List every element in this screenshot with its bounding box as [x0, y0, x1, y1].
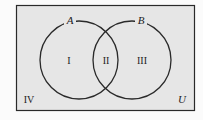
- universe-label: U: [178, 93, 187, 105]
- set-b-label: B: [138, 14, 145, 26]
- set-a-label: A: [66, 14, 74, 26]
- region-ii-label: II: [103, 55, 110, 66]
- venn-diagram: A B I II III IV U: [0, 0, 203, 120]
- region-i-label: I: [67, 55, 70, 66]
- region-iv-label: IV: [24, 94, 35, 105]
- region-iii-label: III: [137, 55, 147, 66]
